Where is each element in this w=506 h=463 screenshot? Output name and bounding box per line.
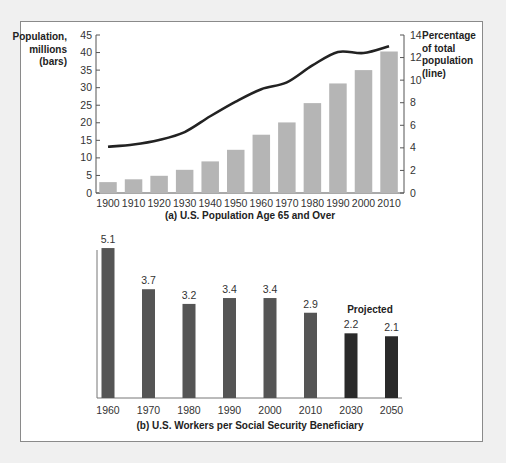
left-y-tick-label: 30 xyxy=(80,81,92,93)
x-tick-label: 1960 xyxy=(96,404,120,416)
x-tick-label: 2000 xyxy=(258,404,282,416)
chart-b-caption: (b) U.S. Workers per Social Security Ben… xyxy=(136,420,364,431)
x-tick-label: 2000 xyxy=(352,197,376,209)
left-y-tick-label: 45 xyxy=(80,29,92,41)
workers-bar xyxy=(304,313,317,398)
bar-value-label: 5.1 xyxy=(101,233,116,245)
x-tick-label: 1920 xyxy=(147,197,171,209)
projected-bar xyxy=(345,333,358,398)
population-bar xyxy=(278,122,296,193)
x-tick-label: 1980 xyxy=(177,404,201,416)
x-tick-label: 2010 xyxy=(377,197,401,209)
right-y-tick-label: 0 xyxy=(410,187,416,199)
left-y-tick-label: 35 xyxy=(80,64,92,76)
bar-value-label: 2.2 xyxy=(344,318,359,330)
population-bar xyxy=(176,170,194,193)
right-y-axis-title: Percentage xyxy=(422,30,476,41)
right-y-axis-title: of total xyxy=(422,43,456,54)
x-tick-label: 2030 xyxy=(339,404,363,416)
x-tick-label: 1970 xyxy=(137,404,161,416)
bar-value-label: 3.4 xyxy=(263,283,278,295)
left-y-tick-label: 40 xyxy=(80,46,92,58)
right-y-tick-label: 8 xyxy=(410,96,416,108)
population-bar xyxy=(355,70,373,193)
percentage-line xyxy=(108,46,389,146)
bar-value-label: 3.7 xyxy=(141,274,156,286)
x-tick-label: 1980 xyxy=(301,197,325,209)
x-tick-label: 1970 xyxy=(275,197,299,209)
bar-value-label: 3.2 xyxy=(182,289,197,301)
x-tick-label: 1960 xyxy=(250,197,274,209)
left-y-tick-label: 10 xyxy=(80,151,92,163)
right-y-tick-label: 14 xyxy=(410,29,422,41)
right-y-tick-label: 10 xyxy=(410,74,422,86)
left-y-axis-title: (bars) xyxy=(39,56,67,67)
x-tick-label: 2010 xyxy=(299,404,323,416)
left-y-tick-label: 20 xyxy=(80,116,92,128)
x-tick-label: 1930 xyxy=(173,197,197,209)
chart-a-caption: (a) U.S. Population Age 65 and Over xyxy=(165,210,335,221)
figure-canvas: 051015202530354045Population,millions(ba… xyxy=(0,0,506,463)
left-y-tick-label: 0 xyxy=(86,187,92,199)
left-y-tick-label: 5 xyxy=(86,169,92,181)
population-bar xyxy=(253,135,270,193)
workers-bar xyxy=(142,289,155,398)
right-y-axis-title: population xyxy=(422,55,473,66)
workers-bar xyxy=(264,298,277,398)
workers-bar xyxy=(223,298,236,398)
x-tick-label: 1990 xyxy=(326,197,350,209)
x-tick-label: 1910 xyxy=(122,197,146,209)
left-y-axis-title: Population, xyxy=(13,31,68,42)
population-bar xyxy=(99,182,117,193)
right-y-tick-label: 12 xyxy=(410,51,422,63)
left-y-tick-label: 25 xyxy=(80,99,92,111)
population-bar xyxy=(227,150,245,193)
projected-bar xyxy=(385,336,398,398)
right-y-axis-title: (line) xyxy=(422,68,446,79)
population-bar xyxy=(150,176,168,193)
right-y-tick-label: 6 xyxy=(410,119,416,131)
x-tick-label: 1940 xyxy=(199,197,223,209)
population-bar xyxy=(201,161,219,193)
population-bar xyxy=(125,179,143,193)
left-y-axis-title: millions xyxy=(29,44,67,55)
projected-annotation: Projected xyxy=(347,304,393,315)
x-tick-label: 1990 xyxy=(218,404,242,416)
x-tick-label: 1900 xyxy=(96,197,120,209)
population-bar xyxy=(304,103,322,193)
bar-value-label: 3.4 xyxy=(222,283,237,295)
population-bar xyxy=(329,83,347,193)
x-tick-label: 1950 xyxy=(224,197,248,209)
bar-value-label: 2.1 xyxy=(384,321,399,333)
x-tick-label: 2050 xyxy=(380,404,404,416)
population-bar xyxy=(380,52,398,193)
left-y-tick-label: 15 xyxy=(80,134,92,146)
right-y-tick-label: 2 xyxy=(410,164,416,176)
workers-bar xyxy=(102,248,115,398)
workers-bar xyxy=(183,304,196,398)
bar-value-label: 2.9 xyxy=(303,298,318,310)
right-y-tick-label: 4 xyxy=(410,141,416,153)
